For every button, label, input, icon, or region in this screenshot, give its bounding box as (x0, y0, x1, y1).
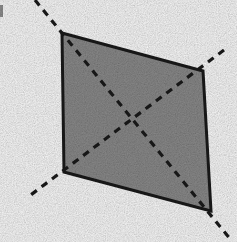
figure-canvas: Shaded quadrilateral with dashed diagona… (0, 0, 237, 242)
scan-mark-left-edge (0, 5, 3, 17)
geometry-figure: Shaded quadrilateral with dashed diagona… (0, 0, 237, 242)
vertex-top-left (61, 32, 62, 33)
vertex-top-right (202, 70, 203, 71)
vertex-bottom-right (210, 210, 211, 211)
vertex-bottom-left (63, 171, 64, 172)
